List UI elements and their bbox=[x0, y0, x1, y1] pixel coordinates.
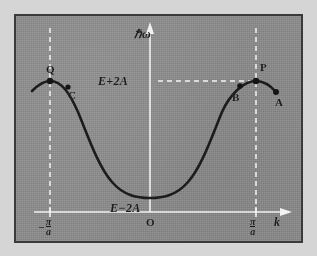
minus-sign: − bbox=[38, 222, 45, 233]
point-c-label: C bbox=[68, 90, 76, 101]
fraction-denominator: a bbox=[250, 226, 255, 237]
dispersion-plot bbox=[16, 16, 301, 241]
x-tick-label-minus-pi-over-a: −πa bbox=[38, 217, 51, 237]
lower-band-edge-label: E−2A bbox=[110, 202, 140, 214]
point-q-label: Q bbox=[46, 64, 55, 75]
fraction-numerator: π bbox=[46, 217, 51, 226]
point-q-dot bbox=[47, 78, 53, 84]
point-b-dot bbox=[237, 83, 243, 89]
point-p-dot bbox=[253, 78, 259, 84]
upper-band-edge-label: E+2A bbox=[98, 75, 128, 87]
x-axis-arrowhead bbox=[280, 208, 292, 216]
y-axis-label: ℏω bbox=[134, 28, 151, 40]
point-p-label: P bbox=[260, 62, 267, 73]
fraction-numerator: π bbox=[250, 217, 255, 226]
figure-canvas: ℏω k O E+2A E−2A Q C B P A −πa πa bbox=[0, 0, 317, 256]
fraction-pi-over-a-left: πa bbox=[46, 217, 51, 237]
fraction-pi-over-a-right: πa bbox=[250, 217, 255, 237]
plot-plate: ℏω k O E+2A E−2A Q C B P A −πa πa bbox=[14, 14, 303, 243]
x-tick-label-pi-over-a: πa bbox=[250, 217, 255, 237]
fraction-denominator: a bbox=[46, 226, 51, 237]
x-axis-label: k bbox=[274, 216, 280, 228]
point-b-label: B bbox=[232, 92, 239, 103]
point-a-label: A bbox=[275, 97, 283, 108]
point-a-dot bbox=[273, 89, 279, 95]
origin-label: O bbox=[146, 217, 155, 228]
